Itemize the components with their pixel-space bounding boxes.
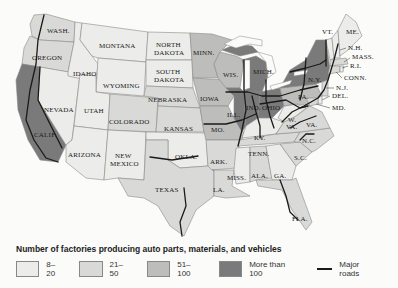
label-ri: R.I.: [350, 62, 361, 70]
legend-label-8-20: 8–20: [46, 260, 63, 278]
label-co: COLORADO: [109, 118, 150, 126]
label-nv: NEVADA: [44, 106, 74, 114]
legend-title: Number of factories producing auto parts…: [16, 244, 396, 254]
label-az: ARIZONA: [68, 151, 101, 159]
label-vt: VT.: [322, 28, 333, 36]
label-mn: MINN.: [193, 49, 214, 57]
label-ne: NEBRASKA: [148, 96, 187, 104]
label-nd-1: NORTH: [156, 41, 181, 49]
label-wv-2: VA.: [286, 123, 298, 131]
state-ri: [340, 66, 344, 72]
label-tn: TENN.: [248, 150, 269, 158]
label-or: OREGON: [32, 54, 62, 62]
label-ky: KY.: [254, 134, 266, 142]
label-wa: WASH.: [47, 27, 70, 35]
label-oh: OHIO: [262, 104, 280, 112]
label-pa: PA.: [298, 93, 309, 101]
label-ny: N.Y.: [308, 76, 322, 84]
label-va: VA.: [306, 121, 318, 129]
label-me: ME.: [346, 28, 359, 36]
label-sd-1: SOUTH: [156, 68, 180, 76]
state-wy: [96, 58, 146, 96]
legend-swatch-51-100: [147, 261, 170, 277]
label-nm-2: MEXICO: [110, 160, 139, 168]
legend-swatch-21-50: [79, 261, 102, 277]
label-in: IND.: [246, 104, 261, 112]
legend-label-roads: Major roads: [339, 260, 380, 278]
label-tx: TEXAS: [155, 186, 179, 194]
label-de: DEL.: [332, 92, 348, 100]
label-ia: IOWA: [200, 95, 219, 103]
label-nm-1: NEW: [115, 152, 132, 160]
label-ut: UTAH: [84, 107, 104, 115]
lake-michigan: [244, 60, 250, 90]
label-ar: ARK.: [210, 158, 227, 166]
label-la: LA.: [213, 186, 225, 194]
label-il: ILL.: [227, 111, 240, 119]
label-wy: WYOMING: [103, 82, 140, 90]
label-sd-2: DAKOTA: [154, 76, 184, 84]
legend-swatch-more-than-100: [219, 261, 242, 277]
label-nj: N.J.: [336, 84, 348, 92]
lake-superior: [224, 36, 262, 48]
label-ca: CALIF.: [34, 131, 57, 139]
label-ms: MISS.: [227, 174, 246, 182]
label-mt: MONTANA: [99, 42, 136, 50]
us-map: WASH. OREGON CALIF. NEVADA IDAHO MONTANA…: [0, 0, 398, 240]
label-mi: MICH.: [253, 68, 274, 76]
label-nc: N.C.: [302, 137, 316, 145]
label-id: IDAHO: [73, 70, 97, 78]
legend-label-51-100: 51–100: [177, 260, 203, 278]
label-md: MD.: [332, 104, 346, 112]
label-mo: MO.: [211, 126, 225, 134]
road-line-icon: [317, 268, 332, 270]
label-al: ALA.: [251, 172, 268, 180]
label-ma: MASS.: [352, 53, 374, 61]
label-ok: OKLA.: [175, 153, 197, 161]
label-nh: N.H.: [348, 44, 362, 52]
legend-label-more-than-100: More than 100: [249, 260, 299, 278]
label-nd-2: DAKOTA: [154, 49, 184, 57]
map-legend: Number of factories producing auto parts…: [16, 244, 396, 278]
legend-items: 8–20 21–50 51–100 More than 100 Major ro…: [16, 260, 396, 278]
label-ga: GA.: [274, 172, 287, 180]
label-ks: KANSAS: [164, 125, 193, 133]
label-sc: S.C.: [294, 154, 307, 162]
legend-swatch-8-20: [16, 261, 39, 277]
label-ct: CONN.: [344, 74, 367, 82]
legend-label-21-50: 21–50: [110, 260, 131, 278]
label-wi: WIS.: [223, 71, 238, 79]
label-fl: FLA.: [292, 215, 308, 223]
